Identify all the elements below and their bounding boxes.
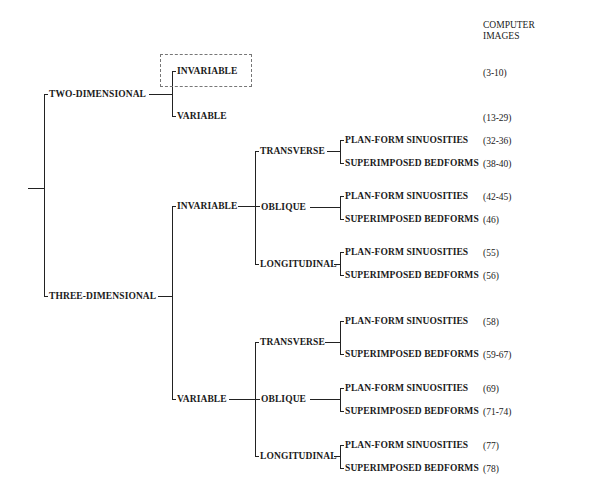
tick-inv-longitudinal [255,264,259,265]
connector-var-oblique [310,399,341,400]
node-two-dimensional: TWO-DIMENSIONAL [49,89,146,100]
images-inv-transverse-bedforms: (38-40) [483,159,512,170]
node-inv-longitudinal: LONGITUDINAL [260,259,337,270]
tick [340,321,344,322]
tick-three-dim [44,296,48,297]
tick [340,388,344,389]
node-three-dimensional: THREE-DIMENSIONAL [49,291,156,302]
tick-3d-invariable [172,206,176,207]
leaf-inv-oblique-bedforms: SUPERIMPOSED BEDFORMS [345,214,479,225]
tick-inv-transverse [255,151,259,152]
images-inv-longitudinal-planform: (55) [483,248,499,259]
node-var-longitudinal: LONGITUDINAL [260,451,337,462]
bracket-inv-transverse [340,140,341,164]
node-3d-variable: VARIABLE [177,394,227,405]
node-inv-oblique: OBLIQUE [261,202,306,213]
tick [340,163,344,164]
leaf-var-longitudinal-planform: PLAN-FORM SINUOSITIES [345,440,468,451]
images-inv-longitudinal-bedforms: (56) [483,271,499,282]
tick [340,252,344,253]
bracket-inv-longitudinal [340,252,341,276]
bracket-3d-invariable [255,151,256,265]
images-var-transverse-planform: (58) [483,317,499,328]
bracket-var-oblique [340,388,341,412]
leaf-var-longitudinal-bedforms: SUPERIMPOSED BEDFORMS [345,463,479,474]
tick [340,140,344,141]
node-2d-variable: VARIABLE [177,111,227,122]
root-stem [28,188,45,189]
leaf-inv-transverse-bedforms: SUPERIMPOSED BEDFORMS [345,158,479,169]
tick-two-dim [44,94,48,95]
node-2d-invariable: INVARIABLE [177,66,237,77]
bracket-var-transverse [340,321,341,355]
column-header-computer-images: COMPUTER IMAGES [483,20,535,42]
connector-inv-transverse [327,151,341,152]
images-2d-variable: (13-29) [483,113,512,124]
tick-2d-variable [172,116,176,117]
tick [340,354,344,355]
tick [340,468,344,469]
leaf-var-transverse-planform: PLAN-FORM SINUOSITIES [345,316,468,327]
connector-var-transverse [325,342,341,343]
tick [340,196,344,197]
images-2d-invariable: (3-10) [483,68,507,79]
tick [340,275,344,276]
connector-three-dim [158,296,173,297]
images-inv-oblique-planform: (42-45) [483,192,512,203]
bracket-inv-oblique [340,196,341,220]
tick [340,445,344,446]
leaf-inv-longitudinal-bedforms: SUPERIMPOSED BEDFORMS [345,270,479,281]
images-var-oblique-planform: (69) [483,384,499,395]
images-var-longitudinal-planform: (77) [483,441,499,452]
tick [340,219,344,220]
bracket-three-dim [172,206,173,400]
images-inv-oblique-bedforms: (46) [483,215,499,226]
header-line-1: COMPUTER [483,20,535,31]
node-var-transverse: TRANSVERSE [260,337,325,348]
bracket-var-longitudinal [340,445,341,469]
node-3d-invariable: INVARIABLE [177,201,237,212]
leaf-inv-oblique-planform: PLAN-FORM SINUOSITIES [345,191,468,202]
images-inv-transverse-planform: (32-36) [483,136,512,147]
node-inv-transverse: TRANSVERSE [260,146,325,157]
bracket-3d-variable [255,342,256,457]
node-var-oblique: OBLIQUE [261,394,306,405]
leaf-inv-transverse-planform: PLAN-FORM SINUOSITIES [345,135,468,146]
root-bracket [44,94,45,297]
header-line-2: IMAGES [483,31,535,42]
leaf-var-oblique-planform: PLAN-FORM SINUOSITIES [345,383,468,394]
connector-two-dim [149,94,173,95]
connector-3d-invariable [238,206,260,207]
images-var-transverse-bedforms: (59-67) [483,350,512,361]
images-var-oblique-bedforms: (71-74) [483,407,512,418]
tick-var-longitudinal [255,456,259,457]
leaf-var-transverse-bedforms: SUPERIMPOSED BEDFORMS [345,349,479,360]
tick [340,411,344,412]
images-var-longitudinal-bedforms: (78) [483,464,499,475]
tick-var-transverse [255,342,259,343]
leaf-inv-longitudinal-planform: PLAN-FORM SINUOSITIES [345,247,468,258]
tick-3d-variable [172,399,176,400]
connector-inv-oblique [310,207,341,208]
leaf-var-oblique-bedforms: SUPERIMPOSED BEDFORMS [345,406,479,417]
